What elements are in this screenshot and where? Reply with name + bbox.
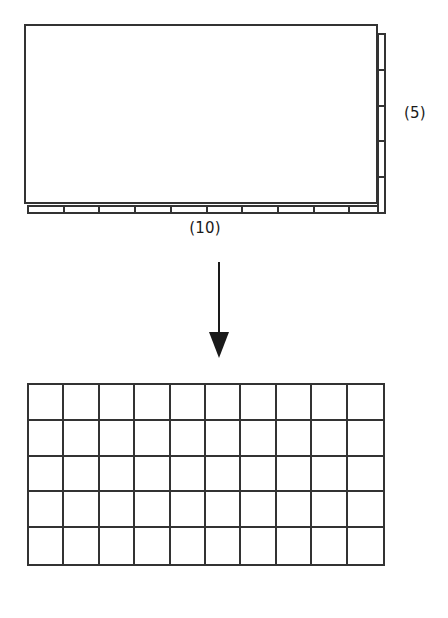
grid-cell (206, 528, 241, 564)
grid-cell (348, 528, 383, 564)
grid-cell (135, 385, 170, 421)
ruler-tick (136, 207, 172, 212)
grid-cell (312, 528, 347, 564)
grid-cell (171, 492, 206, 528)
grid-cell (277, 457, 312, 493)
grid-cell (135, 421, 170, 457)
grid-cell (135, 492, 170, 528)
grid-cell (312, 492, 347, 528)
ruler-tick (29, 207, 65, 212)
grid-cell (206, 457, 241, 493)
grid-cell (29, 528, 64, 564)
grid-cell (100, 385, 135, 421)
ruler-tick (243, 207, 279, 212)
right-ruler-strip (377, 33, 386, 214)
grid-cell (100, 528, 135, 564)
grid-cell (171, 421, 206, 457)
grid-cell (206, 421, 241, 457)
grid-cell (277, 492, 312, 528)
ruler-tick (379, 178, 384, 212)
grid-cell (29, 492, 64, 528)
grid-cell (64, 457, 99, 493)
bottom-figure: (10) (5) (0, 360, 448, 618)
grid-cell (100, 457, 135, 493)
grid-cell (64, 421, 99, 457)
grid-cell (29, 385, 64, 421)
ruler-tick (379, 142, 384, 178)
grid-cell (241, 421, 276, 457)
grid-cell (64, 528, 99, 564)
grid-cell (348, 421, 383, 457)
ruler-tick (379, 35, 384, 71)
grid-cell (29, 421, 64, 457)
grid-cell (100, 492, 135, 528)
ruler-tick (65, 207, 101, 212)
grid-cell (171, 528, 206, 564)
grid-cell (100, 421, 135, 457)
transformation-arrow (205, 262, 233, 358)
ruler-tick (379, 107, 384, 143)
grid-cell (277, 528, 312, 564)
ruler-tick (100, 207, 136, 212)
grid-cell (206, 492, 241, 528)
grid-cell (312, 457, 347, 493)
grid-cell (241, 492, 276, 528)
grid-cell (29, 457, 64, 493)
top-figure-height-label: (5) (404, 106, 426, 121)
unit-square-grid (27, 383, 385, 566)
bottom-ruler-strip (27, 205, 386, 214)
grid-cell (277, 385, 312, 421)
grid-cell (348, 385, 383, 421)
diagram-canvas: (10) (5) (0, 0, 448, 618)
grid-cell (277, 421, 312, 457)
grid-cell (241, 528, 276, 564)
ruler-tick (208, 207, 244, 212)
undivided-rectangle (24, 24, 378, 204)
ruler-tick (279, 207, 315, 212)
grid-cell (348, 492, 383, 528)
grid-cell (64, 385, 99, 421)
grid-cell (312, 385, 347, 421)
top-figure: (10) (5) (0, 0, 448, 240)
grid-cell (64, 492, 99, 528)
ruler-tick (315, 207, 351, 212)
grid-cell (206, 385, 241, 421)
grid-cell (241, 385, 276, 421)
top-figure-width-label: (10) (0, 221, 410, 236)
grid-cell (312, 421, 347, 457)
grid-cell (135, 457, 170, 493)
grid-cell (348, 457, 383, 493)
ruler-tick (379, 71, 384, 107)
grid-cell (135, 528, 170, 564)
grid-cell (241, 457, 276, 493)
grid-cell (171, 385, 206, 421)
ruler-tick (172, 207, 208, 212)
grid-cell (171, 457, 206, 493)
